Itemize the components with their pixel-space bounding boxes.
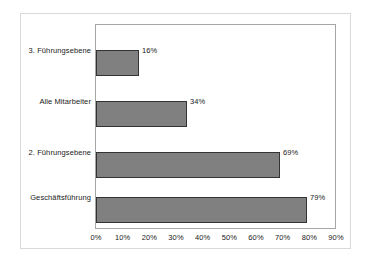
x-tick-label: 50% (222, 233, 237, 242)
x-tick-label: 90% (328, 233, 343, 242)
bar (96, 197, 307, 223)
bar (96, 101, 187, 127)
x-tick-label: 60% (248, 233, 263, 242)
x-tick-label: 30% (168, 233, 183, 242)
x-tick-label: 80% (302, 233, 317, 242)
category-label: 2. Führungsebene (29, 148, 91, 157)
x-tick-label: 70% (275, 233, 290, 242)
x-tick-label: 20% (142, 233, 157, 242)
chart-frame: 3. Führungsebene 16% Alle Mitarbeiter 34… (20, 13, 351, 249)
category-label: 3. Führungsebene (29, 46, 91, 55)
x-tick-label: 10% (115, 233, 130, 242)
bar-value-label: 34% (190, 97, 205, 106)
bar-value-label: 16% (142, 46, 157, 55)
bar-value-label: 69% (283, 148, 298, 157)
category-label: Alle Mitarbeiter (39, 97, 91, 106)
x-tick-label: 40% (195, 233, 210, 242)
bar (96, 50, 139, 76)
category-label: Geschäftsführung (30, 193, 91, 202)
x-tick-label: 0% (90, 233, 101, 242)
bar-value-label: 79% (310, 193, 325, 202)
bar (96, 152, 280, 178)
plot-area: 3. Führungsebene 16% Alle Mitarbeiter 34… (95, 24, 336, 229)
